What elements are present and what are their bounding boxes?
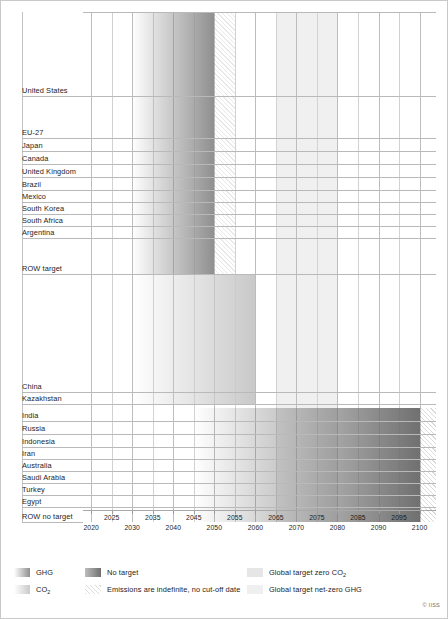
x-tick-2030	[132, 511, 133, 514]
legend-swatch-global-ghg	[247, 585, 263, 594]
row-separator	[83, 404, 436, 405]
row-separator-label	[22, 164, 83, 165]
row-separator-label	[22, 483, 83, 484]
row-separator	[83, 164, 436, 165]
row-label-australia: Australia	[22, 462, 52, 470]
frame-top-border	[0, 0, 448, 1]
row-label-argentina: Argentina	[22, 229, 55, 237]
row-label-saudi-arabia: Saudi Arabia	[22, 474, 65, 482]
row-separator-label	[22, 96, 83, 97]
row-label-india: India	[22, 412, 39, 420]
x-tick-label-2030: 2030	[124, 524, 140, 531]
bar-eu-27	[132, 96, 214, 138]
x-tick-label-2060: 2060	[248, 524, 264, 531]
legend-swatch-global-co2	[247, 568, 263, 577]
row-separator	[83, 214, 436, 215]
chart-page: United StatesEU-27JapanCanadaUnited King…	[0, 0, 448, 619]
hatch-indefinite-australia	[420, 459, 436, 471]
row-label-indonesia: Indonesia	[22, 438, 55, 446]
bar-mexico	[132, 190, 214, 202]
row-separator-label	[22, 214, 83, 215]
row-separator	[83, 495, 436, 496]
hatch-indefinite-mexico	[214, 190, 235, 202]
hatch-indefinite-canada	[214, 151, 235, 164]
row-label-south-korea: South Korea	[22, 205, 64, 213]
x-tick-2070	[296, 511, 297, 514]
x-tick-label-2040: 2040	[166, 524, 182, 531]
row-label-south-africa: South Africa	[22, 217, 63, 225]
legend-item-co2[interactable]: CO2	[14, 585, 50, 594]
legend-label-subscript-co2: 2	[47, 589, 50, 595]
row-separator-label	[22, 190, 83, 191]
hatch-indefinite-india	[420, 408, 436, 421]
hatch-indefinite-saudi-arabia	[420, 471, 436, 483]
x-tick-label-2025: 2025	[104, 514, 120, 521]
row-separator-label	[22, 202, 83, 203]
row-separator	[83, 471, 436, 472]
row-separator	[83, 177, 436, 178]
legend-item-global-co2[interactable]: Global target zero CO2	[247, 568, 346, 577]
row-separator	[83, 151, 436, 152]
row-label-egypt: Egypt	[22, 498, 41, 506]
row-separator-label	[22, 495, 83, 496]
x-tick-2060	[255, 511, 256, 514]
row-separator	[83, 138, 436, 139]
row-separator-label	[22, 404, 83, 405]
row-separator	[83, 421, 436, 422]
bar-iran	[194, 447, 420, 459]
row-separator-label	[22, 421, 83, 422]
hatch-indefinite-brazil	[214, 177, 235, 190]
hatch-indefinite-iran	[420, 447, 436, 459]
bar-australia	[194, 459, 420, 471]
hatch-indefinite-argentina	[214, 226, 235, 238]
bar-row-target	[132, 238, 214, 274]
x-tick-label-2100: 2100	[412, 524, 428, 531]
row-separator-label	[22, 274, 83, 275]
x-tick-2080	[337, 511, 338, 514]
row-label-row-no-target: ROW no target	[22, 513, 73, 521]
hatch-indefinite-eu-27	[214, 96, 235, 138]
x-tick-2050	[214, 511, 215, 514]
row-separator	[83, 507, 436, 508]
row-separator-label	[22, 447, 83, 448]
row-separator	[83, 392, 436, 393]
gridline-2025	[112, 12, 113, 522]
plot-area	[83, 12, 436, 522]
legend-label-ghg: GHG	[36, 568, 53, 577]
row-label-kazakhstan: Kazakhstan	[22, 395, 62, 403]
x-tick-label-2035: 2035	[145, 514, 161, 521]
x-tick-label-2055: 2055	[227, 514, 243, 521]
x-tick-label-2090: 2090	[371, 524, 387, 531]
legend-item-global-ghg[interactable]: Global target net-zero GHG	[247, 585, 362, 594]
bar-egypt	[194, 495, 420, 507]
hatch-indefinite-row-target	[214, 238, 235, 274]
row-label-column: United StatesEU-27JapanCanadaUnited King…	[0, 12, 83, 522]
row-separator-label	[22, 522, 83, 523]
legend-item-ghg[interactable]: GHG	[14, 568, 53, 577]
bar-russia	[194, 421, 420, 434]
x-axis-line	[83, 510, 436, 511]
net-zero-target-chart: United StatesEU-27JapanCanadaUnited King…	[0, 12, 448, 534]
legend-label-no-target: No target	[107, 568, 138, 577]
legend-swatch-indefinite	[85, 585, 101, 594]
bar-indonesia	[194, 434, 420, 447]
legend-label-co2: CO2	[36, 585, 50, 594]
legend-item-indefinite[interactable]: Emissions are indefinite, no cut-off dat…	[85, 585, 240, 594]
row-separator-label	[22, 138, 83, 139]
row-separator	[83, 434, 436, 435]
bar-kazakhstan	[132, 392, 255, 404]
legend-item-no-target[interactable]: No target	[85, 568, 138, 577]
row-label-japan: Japan	[22, 142, 43, 150]
copyright-credit: © IISS	[423, 602, 440, 608]
row-separator	[83, 202, 436, 203]
plot-top-border	[83, 12, 436, 13]
hatch-indefinite-united-kingdom	[214, 164, 235, 177]
bar-argentina	[132, 226, 214, 238]
legend-label-global-ghg: Global target net-zero GHG	[269, 585, 362, 594]
bar-united-states	[132, 12, 214, 96]
bar-india	[194, 408, 420, 421]
bar-south-korea	[132, 202, 214, 214]
hatch-indefinite-russia	[420, 421, 436, 434]
row-separator-label	[22, 151, 83, 152]
x-tick-label-2095: 2095	[391, 514, 407, 521]
